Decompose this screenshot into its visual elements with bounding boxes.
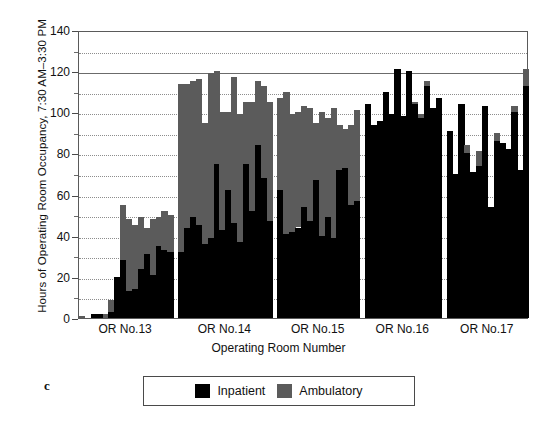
y-tick-label: 100	[30, 106, 70, 120]
y-tick-minor	[74, 93, 78, 94]
x-group-label: OR No.16	[376, 322, 429, 336]
y-tick-label: 20	[30, 271, 70, 285]
bar	[436, 98, 442, 318]
bar-layer	[79, 32, 527, 318]
y-tick-minor	[74, 216, 78, 217]
plot-area	[78, 31, 528, 319]
bar-segment-ambulatory	[267, 102, 273, 221]
chart-legend: Inpatient Ambulatory	[143, 376, 415, 406]
legend-item-inpatient: Inpatient	[195, 384, 265, 398]
panel-letter: c	[44, 378, 50, 394]
y-tick-minor	[74, 52, 78, 53]
legend-label-ambulatory: Ambulatory	[299, 384, 362, 398]
y-tick	[72, 113, 78, 114]
y-tick-label: 140	[30, 24, 70, 38]
bar	[79, 316, 85, 318]
bar	[354, 110, 360, 318]
figure-panel: Hours of Operating Room Occupancy, 7:30 …	[0, 0, 557, 431]
x-group-label: OR No.15	[291, 322, 344, 336]
y-tick	[72, 31, 78, 32]
y-tick	[72, 72, 78, 73]
bar-segment-ambulatory	[494, 133, 500, 141]
bar-segment-ambulatory	[167, 215, 173, 252]
y-tick-label: 40	[30, 230, 70, 244]
y-tick-minor	[74, 134, 78, 135]
y-tick	[72, 154, 78, 155]
bar-segment-ambulatory	[354, 110, 360, 201]
bar-segment-ambulatory	[523, 69, 529, 85]
legend-swatch-ambulatory	[277, 384, 292, 398]
y-tick	[72, 278, 78, 279]
bar-segment-inpatient	[267, 221, 273, 318]
y-tick	[72, 237, 78, 238]
y-tick	[72, 196, 78, 197]
legend-swatch-inpatient	[195, 384, 210, 398]
bar-segment-ambulatory	[464, 145, 470, 153]
y-tick-label: 0	[30, 312, 70, 326]
bar	[167, 215, 173, 318]
bar-segment-inpatient	[436, 98, 442, 318]
y-tick-minor	[74, 175, 78, 176]
bar-segment-inpatient	[523, 86, 529, 318]
x-group-label: OR No.14	[198, 322, 251, 336]
y-tick-minor	[74, 257, 78, 258]
bar	[523, 69, 529, 318]
y-tick	[72, 319, 78, 320]
y-tick-label: 80	[30, 147, 70, 161]
bar-segment-ambulatory	[79, 316, 85, 318]
x-axis-title: Operating Room Number	[0, 341, 557, 355]
x-group-label: OR No.17	[460, 322, 513, 336]
x-group-label: OR No.13	[98, 322, 151, 336]
legend-item-ambulatory: Ambulatory	[277, 384, 362, 398]
y-tick-label: 60	[30, 189, 70, 203]
y-tick-minor	[74, 298, 78, 299]
bar	[267, 102, 273, 318]
legend-label-inpatient: Inpatient	[217, 384, 265, 398]
y-tick-label: 120	[30, 65, 70, 79]
bar-segment-inpatient	[354, 201, 360, 318]
bar-segment-inpatient	[167, 252, 173, 318]
